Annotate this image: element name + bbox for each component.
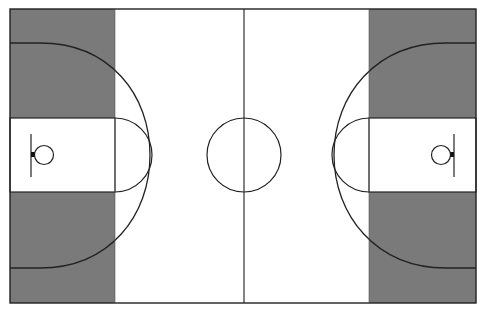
left-key: [10, 118, 115, 192]
right-key: [369, 118, 476, 192]
right-free-throw-arc: [332, 118, 369, 192]
basketball-court: [0, 0, 489, 313]
left-free-throw-arc: [115, 118, 152, 192]
